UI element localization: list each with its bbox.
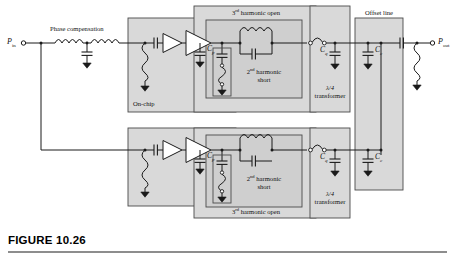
second-harmonic-short-top-line2: short	[257, 76, 270, 83]
cq-bottom-subscript: q	[325, 158, 328, 163]
cap-label-cc-top: Cc	[375, 45, 382, 56]
third-harmonic-open-top-rest: harmonic open	[239, 9, 280, 16]
quarter-wave-bottom-line2: transformer	[315, 198, 346, 205]
label-third-harmonic-open-top: 3rd harmonic open	[214, 8, 298, 17]
label-third-harmonic-open-bottom: 3rd harmonic open	[214, 207, 298, 216]
cp-bottom-subscript: p	[212, 157, 215, 162]
label-quarter-wave-top: λ/4 transformer	[310, 84, 350, 99]
cap-label-cc-bottom: Cc	[375, 152, 382, 163]
block-second-harmonic-short-top	[206, 20, 302, 98]
figure-number-label: FIGURE 10.26	[8, 234, 86, 246]
quarter-wave-bottom-line1: λ/4	[326, 190, 334, 197]
quarter-wave-top-line1: λ/4	[326, 84, 334, 91]
cap-label-cp-bottom: Cp	[207, 151, 215, 162]
port-label-input: Pin	[7, 37, 16, 48]
label-second-harmonic-short-bottom: 2nd harmonic short	[234, 174, 294, 190]
label-on-chip: On-chip	[133, 100, 155, 108]
port-label-output: Pout	[438, 37, 449, 48]
quarter-wave-top-line2: transformer	[315, 92, 346, 99]
second-harmonic-short-bottom-rest: harmonic	[255, 175, 282, 182]
port-output-subscript: out	[443, 43, 449, 48]
block-offset-line	[355, 18, 403, 190]
block-second-harmonic-short-bottom	[206, 135, 302, 207]
caption-divider	[8, 251, 447, 253]
port-input-subscript: in	[12, 43, 16, 48]
label-offset-line: Offset line	[355, 9, 403, 17]
cap-label-cq-top: Cq	[320, 45, 328, 56]
second-harmonic-short-top-rest: harmonic	[255, 68, 282, 75]
schematic-drawing	[0, 0, 455, 232]
figure-root: Phase compensation On-chip 3rd harmonic …	[0, 0, 455, 257]
cq-top-subscript: q	[325, 51, 328, 56]
label-phase-compensation: Phase compensation	[50, 25, 104, 33]
label-quarter-wave-bottom: λ/4 transformer	[310, 190, 350, 205]
second-harmonic-short-bottom-line2: short	[257, 183, 270, 190]
cap-label-cp-top: Cp	[207, 44, 215, 55]
cc-bottom-subscript: c	[380, 158, 382, 163]
input-network	[21, 41, 128, 150]
cp-top-subscript: p	[212, 50, 215, 55]
cap-label-cq-bottom: Cq	[320, 152, 328, 163]
third-harmonic-open-bottom-rest: harmonic open	[239, 208, 280, 215]
label-second-harmonic-short-top: 2nd harmonic short	[234, 67, 294, 83]
figure-caption: FIGURE 10.26	[8, 232, 455, 257]
cc-top-subscript: c	[380, 51, 382, 56]
